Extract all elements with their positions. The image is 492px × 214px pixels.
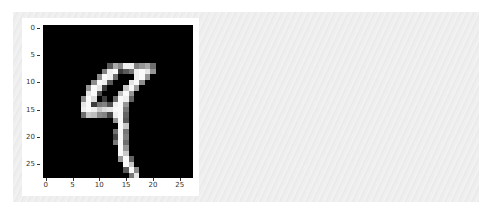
y-tick-mark (37, 164, 40, 165)
y-tick-label: 0 (31, 24, 35, 31)
y-tick-mark (37, 110, 40, 111)
x-axis: 0 5 10 15 20 25 (43, 182, 193, 192)
x-tick-label: 10 (95, 182, 104, 189)
y-tick-label: 25 (26, 161, 35, 168)
x-tick-label: 5 (70, 182, 74, 189)
y-tick-label: 10 (26, 79, 35, 86)
y-tick-mark (37, 28, 40, 29)
digit-image (43, 25, 193, 178)
y-tick-label: 20 (26, 133, 35, 140)
y-tick-label: 5 (31, 52, 35, 59)
y-axis: 0 5 10 15 20 25 (22, 25, 40, 178)
y-tick-mark (37, 137, 40, 138)
x-tick-label: 25 (175, 182, 184, 189)
image-pixel (188, 173, 193, 178)
y-tick-mark (37, 55, 40, 56)
y-tick-label: 15 (26, 106, 35, 113)
x-tick-label: 15 (122, 182, 131, 189)
y-tick-mark (37, 82, 40, 83)
x-tick-label: 20 (148, 182, 157, 189)
x-tick-label: 0 (43, 182, 47, 189)
